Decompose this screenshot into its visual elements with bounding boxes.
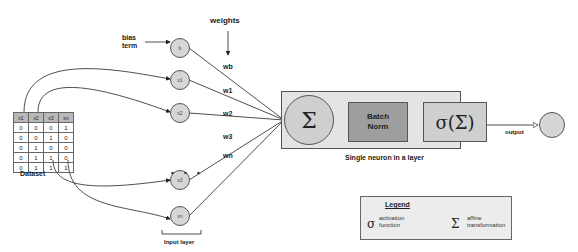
weight-label-w2: w2 [223, 110, 232, 118]
batch-norm-label: Batch Norm [367, 112, 389, 132]
cell: 0 [59, 143, 74, 153]
batch-norm-block: Batch Norm [348, 102, 408, 142]
cell: 0 [14, 123, 29, 133]
cell: 1 [29, 143, 44, 153]
col-header: x3 [44, 113, 59, 123]
col-header: x2 [29, 113, 44, 123]
legend-affine-text: affine transformation [467, 215, 505, 229]
table-row: 0100 [14, 143, 74, 153]
table-row: 0110 [14, 153, 74, 163]
cell: 0 [29, 123, 44, 133]
input-layer-label: Input layer [164, 238, 194, 246]
weight-label-wb: wb [223, 63, 233, 71]
cell: 1 [44, 163, 59, 173]
cell: 1 [44, 153, 59, 163]
cell: 1 [29, 153, 44, 163]
single-neuron-label: Single neuron in a layer [345, 154, 424, 162]
cell: 0 [44, 143, 59, 153]
col-header: xn [59, 113, 74, 123]
summation-symbol-icon: Σ [451, 217, 459, 231]
cell: 1 [59, 123, 74, 133]
legend-title: Legend [385, 201, 410, 208]
input-node-xn: xn [170, 206, 190, 226]
cell: 1 [44, 133, 59, 143]
cell: 0 [59, 153, 74, 163]
cell: 1 [59, 163, 74, 173]
table-row: 0001 [14, 123, 74, 133]
sigma-symbol-icon: σ [367, 217, 375, 231]
cell: 0 [14, 153, 29, 163]
bias-term-label: bias term [122, 34, 137, 50]
cell: 0 [29, 133, 44, 143]
cell: 0 [59, 133, 74, 143]
weights-label: weights [210, 17, 240, 25]
weight-label-wn: wn [223, 152, 233, 160]
output-label: output [505, 128, 524, 136]
legend-activation-text: activation function [379, 215, 404, 229]
weight-label-w3: w3 [223, 133, 232, 141]
col-header: x1 [14, 113, 29, 123]
summation-node: Σ [284, 95, 334, 145]
cell: 0 [14, 133, 29, 143]
ellipsis: • • • [171, 168, 204, 177]
table-row: 0010 [14, 133, 74, 143]
weight-label-w1: w1 [223, 87, 232, 95]
legend-box: Legend σ activation function Σ affine tr… [360, 196, 512, 240]
input-node-x1: x1 [170, 70, 190, 90]
bias-node: b [170, 38, 190, 58]
input-node-x2: x2 [170, 103, 190, 123]
output-node [539, 112, 565, 138]
dataset-label: Dataset [20, 170, 45, 178]
activation-block: σ(Σ) [423, 102, 487, 142]
cell: 0 [44, 123, 59, 133]
cell: 0 [14, 143, 29, 153]
dataset-table: x1 x2 x3 xn 0001 0010 0100 0110 0111 [13, 112, 74, 173]
